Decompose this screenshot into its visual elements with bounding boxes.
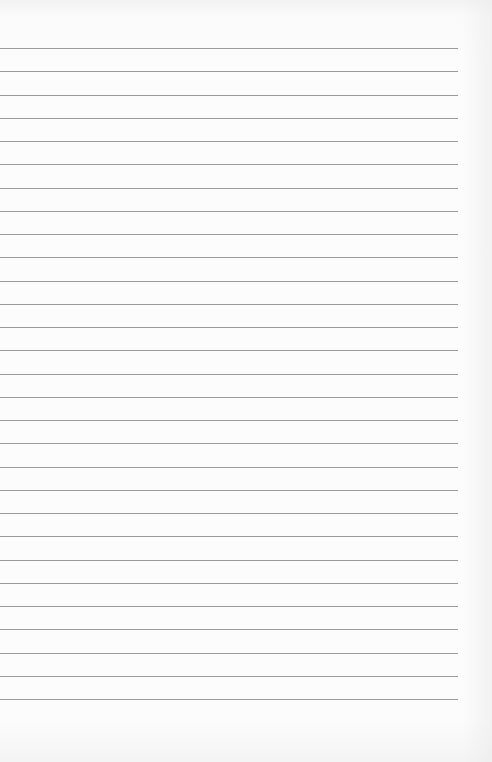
ruled-line: [0, 188, 458, 189]
ruled-line: [0, 48, 458, 49]
ruled-line: [0, 676, 458, 677]
ruled-line: [0, 374, 458, 375]
lined-paper-page: [0, 0, 492, 762]
ruled-line: [0, 490, 458, 491]
ruled-line: [0, 536, 458, 537]
ruled-line: [0, 281, 458, 282]
ruled-line: [0, 257, 458, 258]
ruled-line: [0, 327, 458, 328]
ruled-line: [0, 513, 458, 514]
ruled-line: [0, 95, 458, 96]
ruled-line: [0, 141, 458, 142]
ruled-line: [0, 71, 458, 72]
ruled-line: [0, 420, 458, 421]
ruled-line: [0, 234, 458, 235]
ruled-line: [0, 443, 458, 444]
ruled-line: [0, 304, 458, 305]
ruled-line: [0, 653, 458, 654]
ruled-line: [0, 397, 458, 398]
ruled-line: [0, 118, 458, 119]
ruled-line: [0, 699, 458, 700]
ruled-line: [0, 164, 458, 165]
ruled-line: [0, 606, 458, 607]
ruled-line: [0, 629, 458, 630]
ruled-line: [0, 560, 458, 561]
ruled-line: [0, 350, 458, 351]
ruled-line: [0, 211, 458, 212]
ruled-line: [0, 583, 458, 584]
ruled-line: [0, 467, 458, 468]
